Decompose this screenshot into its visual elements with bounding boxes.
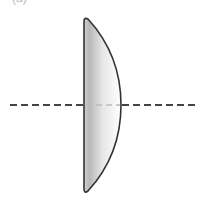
- lens-diagram: [0, 0, 204, 202]
